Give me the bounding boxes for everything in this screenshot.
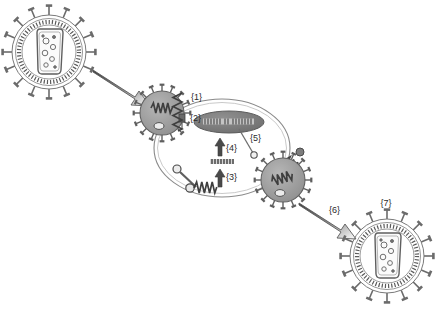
budding-virion-core-dot <box>275 190 285 197</box>
progeny-virion-right <box>341 210 434 303</box>
ribosome <box>186 184 194 192</box>
label-2: {2} <box>190 113 201 123</box>
import-cargo-bead <box>251 152 257 158</box>
budding-virion <box>255 152 312 209</box>
cell-nucleus <box>194 111 264 133</box>
label-4: {4} <box>226 143 237 153</box>
release-arrow <box>299 203 356 239</box>
free-virion-left <box>3 6 96 99</box>
label-7: {7} <box>380 198 391 208</box>
translation-arrow-3 <box>215 169 225 187</box>
label-3: {3} <box>226 172 237 182</box>
entry-arrow <box>93 70 150 106</box>
viral-genome-segment <box>210 159 234 164</box>
label-1: {1} <box>191 92 202 102</box>
nascent-polypeptide <box>194 182 217 193</box>
attached-virion-core-dot <box>154 123 164 130</box>
assembly-protein-bead <box>296 148 304 156</box>
rnp-bead <box>173 165 181 173</box>
figure-canvas: {1} {2} {3} {4} {5} {6} {7} <box>0 0 442 314</box>
label-5: {5} <box>250 133 261 143</box>
label-6: {6} <box>329 205 340 215</box>
replication-arrow-4 <box>215 138 225 156</box>
viral-replication-figure: {1} {2} {3} {4} {5} {6} {7} <box>0 0 442 314</box>
